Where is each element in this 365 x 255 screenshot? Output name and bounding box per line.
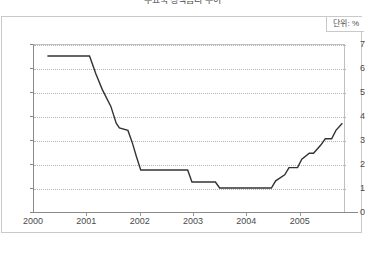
series-line-policy-rate [33, 44, 345, 212]
x-tick-label-2000: 2000 [13, 216, 53, 227]
x-tick-label-2005: 2005 [280, 216, 320, 227]
x-tick-label-2001: 2001 [66, 216, 106, 227]
x-tick-label-2003: 2003 [173, 216, 213, 227]
x-tick-label-2002: 2002 [120, 216, 160, 227]
x-tick-label-2004: 2004 [226, 216, 266, 227]
x-axis-line [33, 212, 358, 213]
chart-root: 주요국 정책금리 추이 단위: % 01234567 2000200120022… [0, 0, 365, 255]
